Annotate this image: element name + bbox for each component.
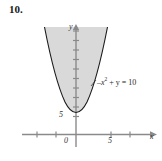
coordinate-plane-graph [0,0,162,161]
figure-panel: 10. [0,0,162,161]
equation-rest: + y = [107,78,128,87]
equation-annotation: –x2 + y = 10 [97,76,136,87]
x-axis-label: x [150,132,154,141]
x-axis-tick-label-5: 5 [108,136,112,145]
equation-value: 10 [128,78,136,87]
equation-lhs: –x [97,78,105,87]
y-axis-tick-label-5: 5 [59,110,63,119]
y-axis-label: y [69,22,73,31]
origin-label: 0 [64,136,68,145]
